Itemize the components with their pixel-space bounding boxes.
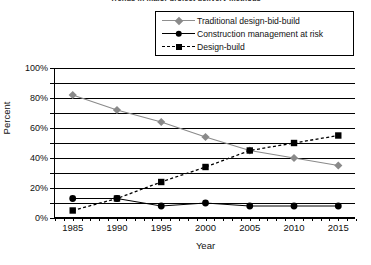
legend-label: Construction management at risk [197,29,323,39]
data-point-square-icon [335,132,341,138]
y-axis-tick-label: 40% [30,153,48,163]
x-axis-tick [321,219,322,222]
data-point-square-icon [291,140,297,146]
legend-item-construction-management-at-risk: Construction management at risk [156,27,353,40]
x-axis-tick [170,219,171,222]
data-point-square-icon [202,164,208,170]
series-layer [55,68,356,218]
legend-key-diamond-icon [160,14,197,27]
x-axis-tick-label: 1995 [151,222,172,233]
data-point-diamond-icon [69,91,77,99]
data-point-diamond-icon [157,118,165,126]
data-point-circle-icon [158,203,165,210]
data-point-diamond-icon [113,106,121,114]
x-axis-tick [259,219,260,222]
y-axis-title: Percent [1,102,12,135]
x-axis-tick [55,219,56,222]
data-point-diamond-icon [201,133,209,141]
x-axis-tick-label: 2010 [283,222,304,233]
x-axis-tick [179,219,180,222]
x-axis-tick-label: 2000 [195,222,216,233]
chart-title: Trends in major project delivery methods [0,0,371,1]
legend-item-traditional-design-bid-build: Traditional design-bid-build [156,14,353,27]
x-axis-tick [126,219,127,222]
data-point-square-icon [247,147,253,153]
x-axis-tick [188,219,189,222]
chart-figure: Trends in major project delivery methods… [0,0,371,265]
legend-key-square-icon [160,40,197,53]
x-axis-tick-label: 2005 [239,222,260,233]
x-axis-tick [312,219,313,222]
x-axis-tick [135,219,136,222]
x-axis-tick [90,219,91,222]
x-axis-tick [356,219,357,222]
data-point-diamond-icon [334,161,342,169]
x-axis-tick [144,219,145,222]
y-axis-tick-label: 60% [30,123,48,133]
x-axis-tick [329,219,330,222]
series-line [73,136,339,211]
data-point-square-icon [70,207,76,213]
x-axis-tick [197,219,198,222]
x-axis-tick [82,219,83,222]
legend-label: Design-build [197,42,245,52]
data-point-circle-icon [69,195,76,202]
data-point-square-icon [158,179,164,185]
x-axis-tick-label: 1985 [62,222,83,233]
x-axis-tick [267,219,268,222]
data-point-circle-icon [291,203,298,210]
legend-item-design-build: Design-build [156,40,353,53]
plot-area: 0%20%40%60%80%100% 198519901995200020052… [54,68,355,218]
data-point-circle-icon [335,203,342,210]
x-axis-tick [108,219,109,222]
x-axis-tick [214,219,215,222]
y-axis-tick-label: 20% [30,183,48,193]
y-axis-tick-label: 0% [35,213,48,223]
x-axis-title: Year [55,240,356,251]
x-axis-tick [285,219,286,222]
x-axis-tick [241,219,242,222]
x-axis-tick [232,219,233,222]
chart-legend: Traditional design-bid-build Constructio… [155,11,354,56]
data-point-square-icon [114,195,120,201]
data-point-circle-icon [202,200,209,207]
x-axis-tick [303,219,304,222]
x-axis-tick-label: 2015 [328,222,349,233]
data-point-diamond-icon [290,154,298,162]
legend-key-circle-icon [160,27,197,40]
x-axis-tick [347,219,348,222]
y-axis-tick-label: 80% [30,93,48,103]
x-axis-tick [276,219,277,222]
x-axis-tick-label: 1990 [106,222,127,233]
legend-label: Traditional design-bid-build [197,16,300,26]
y-axis-tick-label: 100% [25,63,48,73]
series-line [73,95,339,166]
x-axis-tick [152,219,153,222]
data-point-circle-icon [246,203,253,210]
x-axis-tick [223,219,224,222]
x-axis-tick [64,219,65,222]
x-axis-tick [99,219,100,222]
